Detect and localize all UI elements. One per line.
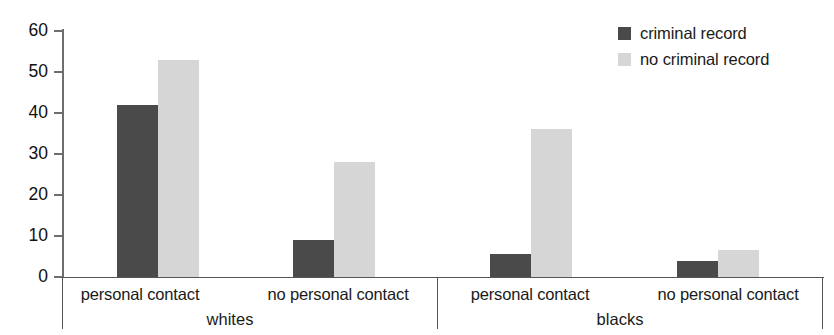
group-separator-right	[822, 277, 823, 329]
bar-whites-personal-contact-criminal-record	[117, 105, 158, 277]
bar-whites-no-personal-contact-no-criminal-record	[334, 162, 375, 277]
category-label-whites-no-personal-contact: no personal contact	[240, 286, 436, 303]
category-label-whites-personal-contact: personal contact	[60, 286, 220, 303]
group-separator-left	[62, 277, 63, 329]
bar-blacks-no-personal-contact-no-criminal-record	[718, 250, 759, 277]
category-label-blacks-personal-contact: personal contact	[440, 286, 620, 303]
bar-chart: criminal record no criminal record 01020…	[0, 0, 834, 335]
bar-blacks-personal-contact-criminal-record	[490, 254, 531, 277]
bar-blacks-no-personal-contact-criminal-record	[677, 261, 718, 277]
bars-layer	[0, 0, 834, 277]
bar-whites-no-personal-contact-criminal-record	[293, 240, 334, 277]
category-label-blacks-no-personal-contact: no personal contact	[630, 286, 826, 303]
group-label-blacks: blacks	[560, 311, 680, 328]
bar-whites-personal-contact-no-criminal-record	[158, 60, 199, 277]
group-label-whites: whites	[170, 311, 290, 328]
bar-blacks-personal-contact-no-criminal-record	[531, 129, 572, 277]
group-separator-middle	[437, 277, 438, 329]
